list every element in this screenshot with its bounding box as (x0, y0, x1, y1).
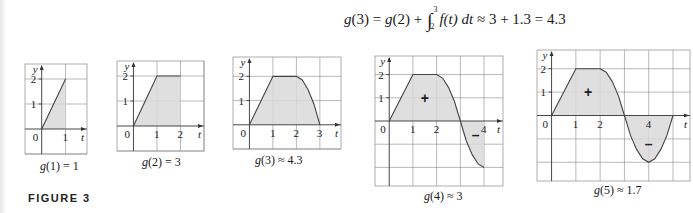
x-tick-label: 0 (543, 118, 549, 130)
x-tick-label: 0 (124, 128, 130, 140)
y-tick-label: 1 (378, 92, 384, 104)
y-axis-label: y (542, 49, 548, 61)
y-axis-arrow (40, 65, 44, 70)
x-axis-label: t (198, 128, 202, 140)
y-axis-arrow (247, 58, 251, 63)
x-tick-label: 4 (481, 123, 487, 135)
plot-g3: yt012312 (233, 57, 341, 149)
plot-g4: yt012412+– (375, 56, 503, 186)
y-tick-label: 2 (378, 69, 384, 81)
integrand: f(t) dt (439, 11, 473, 27)
caption-value: (4) ≈ 3 (430, 189, 463, 203)
negative-area-sign: – (472, 127, 480, 143)
x-tick-label: 1 (573, 118, 579, 130)
y-tick-label: 1 (122, 95, 128, 107)
x-tick-label: 2 (177, 128, 183, 140)
y-axis-arrow (550, 51, 554, 56)
eq-plus: + (410, 11, 426, 27)
x-tick-label: 1 (63, 131, 69, 143)
integral-limits: 32 (433, 14, 439, 24)
x-tick-label: 1 (154, 128, 160, 140)
plot-g2: yt01212 (117, 61, 204, 151)
plot-g5: yt012412+– (537, 50, 690, 181)
x-axis-label: t (335, 127, 339, 139)
figure-label: FIGURE 3 (28, 192, 91, 204)
x-axis-label: t (81, 131, 85, 143)
eq-g: g (344, 11, 352, 27)
caption-g2: g(2) = 3 (142, 155, 181, 170)
caption-value: (2) = 3 (148, 155, 181, 169)
x-tick-label: 4 (646, 118, 652, 130)
y-tick-label: 2 (122, 70, 128, 82)
positive-area-sign: + (421, 90, 429, 106)
y-tick-label: 1 (541, 86, 547, 98)
eq-g2-arg: (2) (392, 11, 410, 27)
upper-limit: 3 (433, 5, 437, 14)
page-edge-shadow (0, 0, 6, 213)
y-tick-label: 2 (541, 63, 547, 75)
x-tick-label: 1 (270, 127, 276, 139)
caption-value: (5) ≈ 1.7 (600, 183, 642, 197)
x-tick-label: 0 (33, 131, 39, 143)
x-axis-label: t (684, 118, 688, 130)
caption-g4: g(4) ≈ 3 (424, 189, 463, 204)
x-tick-label: 0 (380, 123, 386, 135)
plot-g1: yt0112 (25, 64, 87, 154)
x-tick-label: 2 (293, 127, 299, 139)
positive-area-sign: + (584, 84, 592, 100)
x-tick-label: 1 (410, 123, 416, 135)
caption-value: (1) = 1 (46, 159, 79, 173)
equation-g3: g(3) = g(2) + ∫32f(t) dt ≈ 3 + 1.3 = 4.3 (344, 6, 566, 29)
caption-g1: g(1) = 1 (40, 159, 79, 174)
y-axis-arrow (131, 62, 135, 67)
x-axis-label: t (497, 123, 501, 135)
lower-limit: 2 (430, 22, 434, 31)
caption-g3: g(3) ≈ 4.3 (255, 153, 303, 168)
caption-value: (3) ≈ 4.3 (261, 153, 303, 167)
y-tick-label: 1 (31, 98, 37, 110)
y-tick-label: 2 (238, 70, 244, 82)
eq-result: ≈ 3 + 1.3 = 4.3 (473, 11, 566, 27)
y-axis-arrow (387, 57, 391, 62)
x-tick-label: 3 (317, 127, 323, 139)
eq-equals: = (369, 11, 385, 27)
x-tick-label: 2 (597, 118, 602, 130)
y-tick-label: 1 (238, 95, 244, 107)
negative-area-sign: – (645, 136, 653, 152)
y-tick-label: 2 (31, 73, 37, 85)
y-axis-label: y (379, 55, 385, 67)
caption-g5: g(5) ≈ 1.7 (594, 183, 642, 198)
eq-arg: (3) (352, 11, 370, 27)
y-axis-label: y (239, 56, 245, 68)
x-tick-label: 0 (240, 127, 246, 139)
x-tick-label: 2 (434, 123, 440, 135)
